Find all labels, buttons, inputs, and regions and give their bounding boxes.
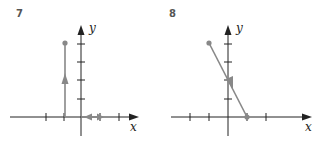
problem-7: 7 y x bbox=[0, 0, 159, 151]
up-arrow-icon bbox=[62, 73, 69, 84]
problem-8: 8 y x bbox=[159, 0, 318, 151]
left-arrow-icon bbox=[84, 114, 92, 121]
graph-7: y x bbox=[0, 0, 159, 151]
start-point bbox=[206, 40, 211, 45]
x-axis-label: x bbox=[130, 120, 137, 134]
end-point bbox=[244, 114, 249, 119]
y-axis-arrow-icon bbox=[225, 25, 232, 35]
x-axis-label: x bbox=[305, 120, 312, 134]
y-axis-arrow-icon bbox=[78, 25, 85, 35]
y-axis-label: y bbox=[235, 21, 243, 35]
start-point bbox=[62, 40, 67, 45]
y-axis-label: y bbox=[88, 21, 96, 35]
graph-8: y x bbox=[159, 0, 318, 151]
